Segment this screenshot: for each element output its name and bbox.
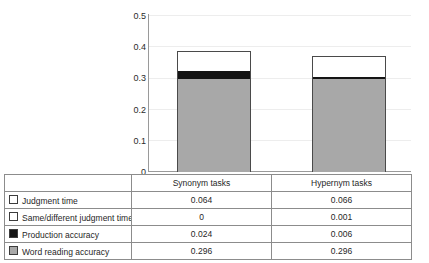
legend-label: Word reading accuracy [22,246,109,256]
table-row: Production accuracy 0.024 0.006 [5,226,412,243]
y-tick-label: 0.4 [120,43,146,52]
legend-label: Judgment time [22,195,78,205]
table-corner-cell [5,175,132,192]
table-cell-value: 0 [132,209,272,226]
legend-swatch-icon [9,229,18,238]
data-table-container: Synonym tasks Hypernym tasks Judgment ti… [4,174,412,260]
table-cell-value: 0.066 [272,192,412,209]
legend-swatch-icon [9,195,18,204]
bar-segment-judgment-time [312,56,386,77]
column-header-hypernym-tasks: Hypernym tasks [272,175,412,192]
stacked-bar-synonym-tasks[interactable] [177,51,251,172]
y-tick-label: 0.5 [120,12,146,21]
bar-segment-production-accuracy [177,71,251,79]
table-cell-value: 0.296 [272,243,412,260]
legend-item-production-accuracy: Production accuracy [5,226,132,243]
bar-segment-judgment-time [177,51,251,71]
legend-swatch-icon [9,246,18,255]
table-cell-value: 0.024 [132,226,272,243]
legend-label: Production accuracy [22,229,99,239]
bar-segment-word-reading-accuracy [177,79,251,172]
column-header-synonym-tasks: Synonym tasks [132,175,272,192]
bar-segment-word-reading-accuracy [312,79,386,172]
table-header-row: Synonym tasks Hypernym tasks [5,175,412,192]
legend-swatch-icon [9,212,18,221]
table-cell-value: 0.006 [272,226,412,243]
bars [149,0,411,175]
table-cell-value: 0.064 [132,192,272,209]
chart-figure: 0.5 0.4 0.3 0.2 0.1 0 [0,0,429,263]
data-table: Synonym tasks Hypernym tasks Judgment ti… [4,174,412,260]
legend-item-same-different-judgment-time: Same/different judgment time [5,209,132,226]
plot-area: 0.5 0.4 0.3 0.2 0.1 0 [0,0,429,175]
stacked-bar-hypernym-tasks[interactable] [312,56,386,172]
y-tick-label: 0.2 [120,106,146,115]
table-row: Judgment time 0.064 0.066 [5,192,412,209]
table-cell-value: 0.296 [132,243,272,260]
legend-label: Same/different judgment time [22,212,132,222]
y-axis: 0.5 0.4 0.3 0.2 0.1 0 [120,0,146,175]
table-cell-value: 0.001 [272,209,412,226]
legend-item-word-reading-accuracy: Word reading accuracy [5,243,132,260]
table-row: Word reading accuracy 0.296 0.296 [5,243,412,260]
legend-item-judgment-time: Judgment time [5,192,132,209]
table-row: Same/different judgment time 0 0.001 [5,209,412,226]
y-tick-label: 0.3 [120,74,146,83]
y-tick-label: 0.1 [120,137,146,146]
